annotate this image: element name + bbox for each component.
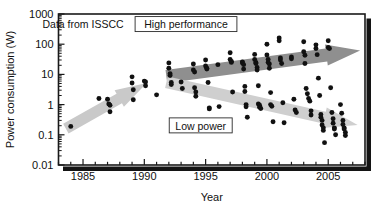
data-point bbox=[328, 85, 333, 90]
data-point bbox=[230, 90, 235, 95]
data-point bbox=[192, 85, 197, 90]
high-performance-label: High performance bbox=[135, 17, 237, 32]
y-tick-label: 10 bbox=[41, 68, 53, 80]
data-point bbox=[333, 132, 338, 137]
data-point bbox=[307, 99, 312, 104]
data-point bbox=[269, 104, 274, 109]
data-point bbox=[309, 113, 314, 118]
source-note: Data from ISSCC bbox=[42, 18, 124, 30]
x-axis-title: Year bbox=[201, 191, 224, 203]
y-tick-label: 0.1 bbox=[38, 129, 53, 141]
data-point bbox=[322, 140, 327, 145]
data-point bbox=[228, 50, 233, 55]
data-point bbox=[229, 60, 234, 65]
data-point bbox=[264, 53, 269, 58]
data-point bbox=[203, 58, 208, 63]
data-point bbox=[179, 80, 184, 85]
data-point bbox=[304, 86, 309, 91]
data-point bbox=[279, 61, 284, 66]
data-point bbox=[245, 115, 250, 120]
data-point bbox=[267, 62, 272, 67]
data-point bbox=[168, 73, 173, 78]
data-point bbox=[180, 86, 185, 91]
data-point bbox=[154, 92, 159, 97]
x-tick-label: 1985 bbox=[71, 170, 95, 182]
data-point bbox=[191, 62, 196, 67]
data-point bbox=[264, 42, 269, 47]
data-point bbox=[309, 108, 314, 113]
data-point bbox=[131, 87, 136, 92]
data-point bbox=[242, 84, 247, 89]
data-point bbox=[207, 106, 212, 111]
data-point bbox=[305, 91, 310, 96]
data-point bbox=[97, 96, 102, 101]
data-point bbox=[241, 62, 246, 67]
data-point bbox=[166, 66, 171, 71]
data-point bbox=[169, 82, 174, 87]
data-point bbox=[244, 104, 249, 109]
data-point bbox=[289, 56, 294, 61]
y-axis-title: Power consumption (W) bbox=[4, 31, 16, 148]
data-point bbox=[192, 70, 197, 75]
low-power-label-text: Low power bbox=[175, 120, 226, 132]
data-point bbox=[331, 116, 336, 121]
data-point bbox=[242, 89, 247, 94]
x-tick-label: 1990 bbox=[132, 170, 156, 182]
data-point bbox=[291, 97, 296, 102]
data-point bbox=[327, 46, 332, 51]
chart-figure: 198519901995200020050.010.11101001000 Ye… bbox=[0, 0, 376, 209]
data-point bbox=[204, 67, 209, 72]
data-point bbox=[271, 119, 276, 124]
data-point bbox=[267, 66, 272, 71]
low-power-label: Low power bbox=[169, 118, 232, 133]
data-point bbox=[294, 110, 299, 115]
data-point bbox=[329, 110, 334, 115]
data-point bbox=[130, 74, 135, 79]
data-point bbox=[315, 52, 320, 57]
data-point bbox=[130, 81, 135, 86]
x-tick-label: 2000 bbox=[255, 170, 279, 182]
data-point bbox=[343, 133, 348, 138]
data-point bbox=[105, 97, 110, 102]
data-point bbox=[258, 106, 263, 111]
x-tick-label: 2005 bbox=[316, 170, 340, 182]
data-point bbox=[143, 83, 148, 88]
data-point bbox=[68, 124, 73, 129]
data-point bbox=[302, 61, 307, 66]
source-note-text: Data from ISSCC bbox=[42, 18, 124, 30]
data-point bbox=[320, 118, 325, 123]
data-point bbox=[131, 97, 136, 102]
high-performance-label-text: High performance bbox=[144, 18, 228, 30]
x-tick-label: 1995 bbox=[193, 170, 217, 182]
data-point bbox=[301, 39, 306, 44]
data-point bbox=[316, 76, 321, 81]
data-point bbox=[282, 120, 287, 125]
y-tick-label: 1 bbox=[47, 99, 53, 111]
data-point bbox=[326, 38, 331, 43]
data-point bbox=[268, 90, 273, 95]
data-point bbox=[338, 102, 343, 107]
data-point bbox=[277, 38, 282, 43]
data-point bbox=[331, 121, 336, 126]
data-point bbox=[339, 111, 344, 116]
data-point bbox=[166, 60, 171, 65]
data-point bbox=[321, 128, 326, 133]
data-point bbox=[241, 67, 246, 72]
data-point bbox=[255, 68, 260, 73]
data-point bbox=[206, 80, 211, 85]
power-consumption-scatter-chart: 198519901995200020050.010.11101001000 Ye… bbox=[0, 0, 376, 209]
y-tick-label: 100 bbox=[35, 38, 53, 50]
data-point bbox=[280, 100, 285, 105]
data-point bbox=[217, 104, 222, 109]
data-point bbox=[108, 109, 113, 114]
data-point bbox=[252, 52, 257, 57]
data-point bbox=[317, 93, 322, 98]
data-point bbox=[215, 62, 220, 67]
y-tick-label: 0.01 bbox=[32, 159, 53, 171]
data-point bbox=[256, 83, 261, 88]
data-point bbox=[302, 53, 307, 58]
data-point bbox=[108, 103, 113, 108]
data-point bbox=[314, 46, 319, 51]
data-point bbox=[332, 127, 337, 132]
data-point bbox=[193, 94, 198, 99]
